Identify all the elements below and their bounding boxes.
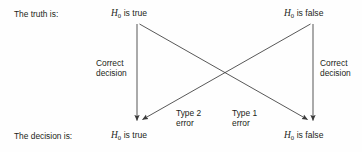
- h0-subscript: 0: [118, 134, 122, 141]
- correct-decision-right-line1: Correct: [320, 58, 351, 68]
- arrow-truth-false-to-decision-true: [143, 24, 311, 120]
- h0-subscript: 0: [118, 12, 122, 19]
- node-decision-h0-true: H0 is true: [111, 130, 147, 141]
- type-1-error-line1: Type 1: [232, 108, 257, 118]
- correct-decision-left-line2: decision: [96, 68, 127, 78]
- label-correct-decision-right: Correct decision: [320, 58, 351, 79]
- h0-symbol: H: [111, 130, 118, 140]
- h0-symbol: H: [284, 130, 291, 140]
- label-type-2-error: Type 2 error: [176, 108, 201, 129]
- h0-symbol: H: [284, 8, 291, 18]
- node-truth-h0-false: H0 is false: [284, 8, 323, 19]
- node-truth-h0-true-text: is true: [121, 8, 147, 18]
- hypothesis-error-diagram: The truth is: The decision is: H0 is tru…: [0, 0, 362, 152]
- h0-symbol: H: [111, 8, 118, 18]
- h0-subscript: 0: [291, 134, 295, 141]
- label-correct-decision-left: Correct decision: [96, 58, 127, 79]
- type-2-error-line1: Type 2: [176, 108, 201, 118]
- correct-decision-right-line2: decision: [320, 68, 351, 78]
- node-decision-h0-false-text: is false: [294, 130, 323, 140]
- type-1-error-line2: error: [232, 118, 257, 128]
- truth-row-label: The truth is:: [14, 9, 58, 19]
- label-type-1-error: Type 1 error: [232, 108, 257, 129]
- h0-subscript: 0: [291, 12, 295, 19]
- arrow-truth-true-to-decision-false: [140, 24, 308, 120]
- node-decision-h0-true-text: is true: [121, 130, 147, 140]
- node-truth-h0-true: H0 is true: [111, 8, 147, 19]
- node-truth-h0-false-text: is false: [294, 8, 323, 18]
- correct-decision-left-line1: Correct: [96, 58, 127, 68]
- type-2-error-line2: error: [176, 118, 201, 128]
- node-decision-h0-false: H0 is false: [284, 130, 323, 141]
- decision-row-label: The decision is:: [14, 131, 72, 141]
